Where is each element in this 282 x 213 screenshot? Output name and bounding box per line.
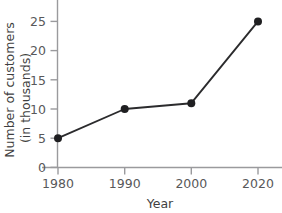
- y-axis-ticks: [51, 21, 58, 167]
- y-axis-title-line-1: Number of customers: [2, 22, 17, 158]
- y-tick-label-5: 5: [38, 131, 46, 146]
- y-axis-title-line-2: (in thousands): [18, 53, 33, 143]
- y-tick-label-25: 25: [30, 14, 46, 29]
- x-axis-ticks: [58, 168, 258, 175]
- data-point-2020: [254, 17, 262, 25]
- y-axis-title: Number of customers (in thousands): [2, 22, 33, 158]
- y-tick-label-0: 0: [38, 160, 46, 175]
- data-point-1980: [54, 134, 62, 142]
- data-point-2000: [187, 99, 195, 107]
- x-axis-title: Year: [146, 196, 174, 211]
- x-tick-label-2000: 2000: [175, 176, 207, 191]
- x-axis-tick-labels: 1980 1990 2000 2020: [42, 176, 274, 191]
- data-series-line: [58, 21, 258, 138]
- chart-plot-area: 0 5 10 15 20 25 1980 1990 2000 2020: [0, 0, 282, 213]
- x-tick-label-2020: 2020: [242, 176, 274, 191]
- line-chart-figure: 0 5 10 15 20 25 1980 1990 2000 2020: [0, 0, 282, 213]
- x-tick-label-1980: 1980: [42, 176, 74, 191]
- data-point-markers: [54, 17, 262, 142]
- data-point-1990: [121, 105, 129, 113]
- x-tick-label-1990: 1990: [109, 176, 141, 191]
